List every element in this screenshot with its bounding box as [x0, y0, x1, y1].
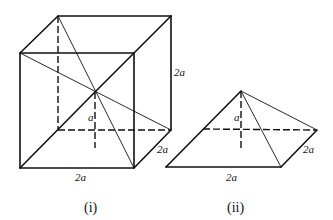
pyramid-width-label: 2a: [226, 171, 238, 183]
figure-i-caption: (i): [84, 200, 98, 216]
pyramid-figure: [166, 91, 317, 167]
cube-depth-label: 2a: [157, 143, 169, 155]
cube-figure: [20, 16, 171, 168]
figure-ii-caption: (ii): [227, 200, 244, 216]
pyramid-height-label: a: [234, 111, 240, 123]
cube-width-label: 2a: [75, 171, 87, 183]
cube-pyramid-height-label: a: [88, 111, 94, 123]
pyramid-depth-label: 2a: [303, 143, 315, 155]
geometry-diagram: 2a 2a 2a a (i) a 2a 2a (ii): [0, 0, 333, 220]
cube-height-label: 2a: [174, 66, 186, 78]
